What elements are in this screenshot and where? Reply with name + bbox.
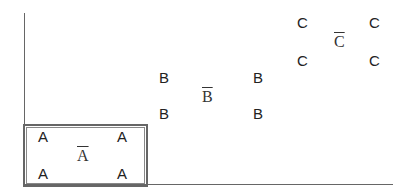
centroid-c: C [334, 34, 345, 50]
point-a-top-left: A [38, 129, 48, 144]
centroid-a: A [77, 148, 89, 164]
point-a-bottom-left: A [38, 166, 48, 181]
point-c-bottom-left: C [297, 53, 308, 68]
centroid-b: B [202, 89, 213, 105]
point-a-top-right: A [117, 129, 127, 144]
point-a-bottom-right: A [117, 166, 127, 181]
point-b-top-left: B [159, 70, 169, 85]
point-b-top-right: B [253, 70, 263, 85]
point-b-bottom-left: B [159, 106, 169, 121]
point-c-top-right: C [369, 15, 380, 30]
point-c-top-left: C [297, 15, 308, 30]
point-c-bottom-right: C [369, 53, 380, 68]
point-b-bottom-right: B [253, 106, 263, 121]
